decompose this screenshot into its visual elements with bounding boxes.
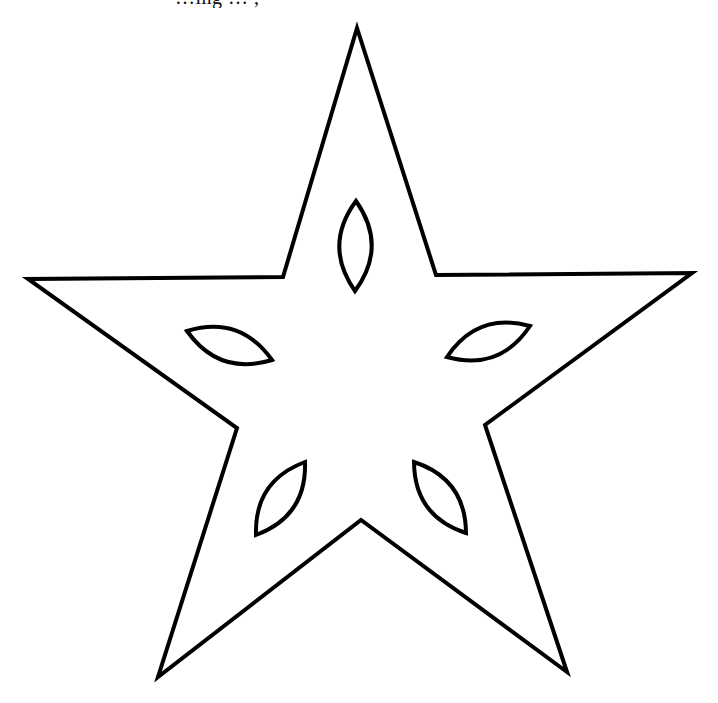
star-outline [28, 28, 692, 677]
star-diagram-canvas: …ing … , [0, 0, 718, 703]
star-figure [0, 0, 718, 703]
